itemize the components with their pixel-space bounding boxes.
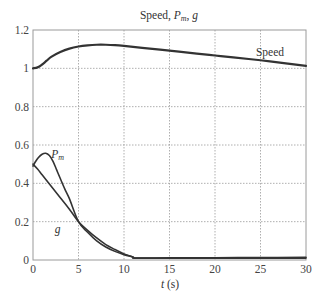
x-tick-label: 5: [76, 263, 82, 275]
x-axis-label: t (s): [161, 278, 179, 291]
chart: 051015202530 00.20.40.60.811.2 SpeedPmg …: [0, 0, 325, 302]
y-tick-label: 0.2: [15, 216, 30, 228]
y-tick-label: 1.2: [15, 24, 30, 36]
x-tick-labels: 051015202530: [30, 263, 312, 275]
x-tick-label: 15: [164, 263, 176, 275]
gridlines: [33, 30, 306, 260]
series-label-g: g: [55, 223, 61, 236]
series-labels: SpeedPmg: [50, 46, 284, 236]
chart-title: Speed, Pm, g: [140, 9, 198, 23]
y-tick-labels: 00.20.40.60.811.2: [15, 24, 30, 266]
y-tick-label: 1: [23, 62, 29, 74]
y-tick-label: 0.8: [15, 101, 30, 113]
x-tick-label: 25: [255, 263, 267, 275]
x-tick-label: 10: [118, 263, 130, 275]
series-label-pm: Pm: [50, 148, 64, 162]
x-tick-label: 20: [209, 263, 221, 275]
y-tick-label: 0.6: [15, 139, 30, 151]
y-tick-label: 0.4: [15, 177, 30, 189]
x-tick-label: 0: [30, 263, 36, 275]
series-label-speed: Speed: [256, 46, 284, 59]
x-tick-label: 30: [300, 263, 312, 275]
y-tick-label: 0: [23, 254, 29, 266]
